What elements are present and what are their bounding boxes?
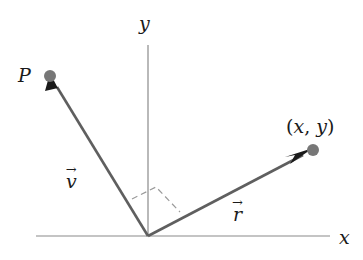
vector-r-label: → r [233, 205, 242, 225]
vector-r-line [148, 155, 303, 236]
point-xy-comma: , [304, 115, 316, 137]
point-p-label: P [18, 66, 31, 85]
vector-v-arrow-accent-icon: → [66, 163, 77, 176]
vector-r-arrow-accent-icon: → [232, 196, 243, 209]
y-axis-label: y [139, 14, 150, 33]
point-xy-x: x [293, 115, 304, 137]
point-p-dot [44, 70, 56, 82]
right-angle-marker [132, 187, 180, 212]
x-axis-label: x [339, 228, 350, 247]
vector-v-glyph: → v [66, 172, 77, 191]
vector-r-glyph: → r [233, 205, 242, 224]
point-xy-label: (x, y) [286, 117, 334, 136]
point-xy-y: y [316, 115, 327, 137]
point-xy-dot [307, 144, 319, 156]
point-xy-close: ) [327, 115, 334, 137]
vector-v-label: → v [66, 172, 77, 192]
vector-diagram-figure: y x P (x, y) → v → r [0, 0, 363, 260]
